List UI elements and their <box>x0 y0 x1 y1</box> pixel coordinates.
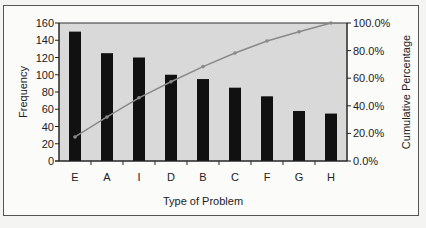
svg-text:20: 20 <box>42 138 54 150</box>
right-axis: 0.0%20.0%40.0%60.0%80.0%100.0% <box>347 17 391 167</box>
svg-text:160: 160 <box>36 17 54 29</box>
svg-text:0.0%: 0.0% <box>353 155 378 167</box>
bar-B <box>197 79 209 161</box>
x-tick-label: B <box>199 171 206 183</box>
bar-G <box>293 111 305 161</box>
svg-text:0: 0 <box>48 155 54 167</box>
x-tick-label: A <box>103 171 111 183</box>
bar-H <box>325 114 337 161</box>
x-axis: EAIDBCFGH <box>55 161 347 183</box>
svg-text:120: 120 <box>36 52 54 64</box>
svg-text:60.0%: 60.0% <box>353 72 384 84</box>
x-tick-label: F <box>264 171 271 183</box>
svg-text:100.0%: 100.0% <box>353 17 391 29</box>
svg-text:40: 40 <box>42 121 54 133</box>
bar-C <box>229 88 241 161</box>
x-tick-label: E <box>71 171 78 183</box>
svg-text:80.0%: 80.0% <box>353 45 384 57</box>
left-axis: 020406080100120140160 <box>36 17 59 167</box>
bar-F <box>261 96 273 161</box>
bar-A <box>101 53 113 161</box>
svg-text:40.0%: 40.0% <box>353 100 384 112</box>
x-tick-label: H <box>327 171 335 183</box>
x-tick-label: I <box>137 171 140 183</box>
cumulative-point-E <box>73 135 77 139</box>
x-tick-label: D <box>167 171 175 183</box>
cumulative-point-B <box>201 65 205 69</box>
svg-text:80: 80 <box>42 86 54 98</box>
y-axis-title: Frequency <box>17 66 29 118</box>
x-tick-label: G <box>295 171 304 183</box>
x-tick-label: C <box>231 171 239 183</box>
svg-text:60: 60 <box>42 103 54 115</box>
svg-text:100: 100 <box>36 69 54 81</box>
x-axis-title: Type of Problem <box>163 195 243 207</box>
bar-E <box>69 32 81 161</box>
cumulative-point-G <box>297 30 301 34</box>
cumulative-point-F <box>265 39 269 43</box>
bar-I <box>133 58 145 162</box>
cumulative-point-C <box>233 51 237 55</box>
cumulative-point-I <box>137 96 141 100</box>
cumulative-point-D <box>169 80 173 84</box>
y2-axis-title: Cumulative Percentage <box>400 35 412 149</box>
cumulative-point-A <box>105 115 109 119</box>
cumulative-point-H <box>329 21 333 25</box>
svg-text:140: 140 <box>36 34 54 46</box>
svg-text:20.0%: 20.0% <box>353 127 384 139</box>
pareto-chart: 020406080100120140160 0.0%20.0%40.0%60.0… <box>0 0 426 228</box>
bar-D <box>165 75 177 161</box>
